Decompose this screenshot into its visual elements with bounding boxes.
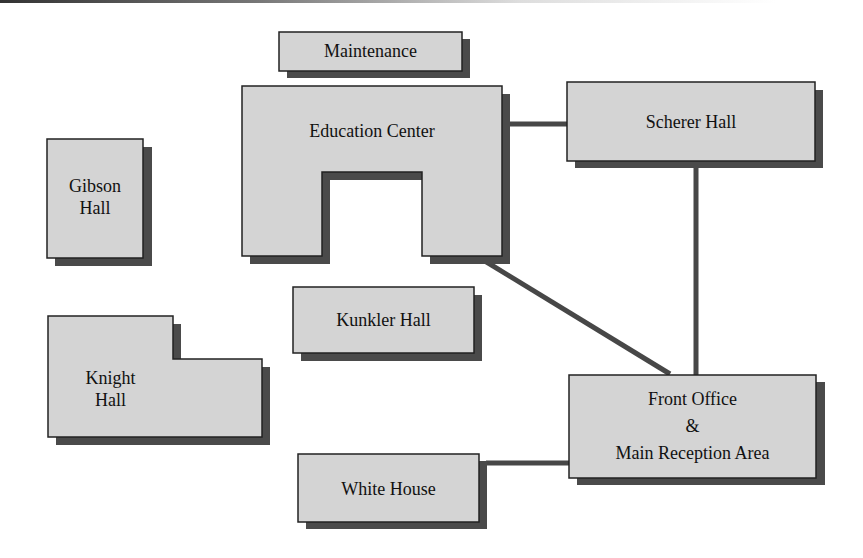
label-line: Hall — [47, 197, 143, 219]
label-knight-hall: Knight Hall — [48, 367, 173, 411]
label-line: Knight — [48, 367, 173, 389]
label-line: Main Reception Area — [569, 440, 816, 467]
label-gibson-hall: Gibson Hall — [47, 175, 143, 219]
label-line: Front Office — [569, 386, 816, 413]
connector-education-frontoffice — [480, 258, 670, 374]
label-line: Hall — [48, 389, 173, 411]
label-kunkler-hall: Kunkler Hall — [293, 309, 474, 331]
label-white-house: White House — [298, 478, 479, 500]
label-line: Gibson — [47, 175, 143, 197]
label-education-center: Education Center — [242, 120, 502, 142]
label-maintenance: Maintenance — [279, 40, 462, 62]
label-line: & — [569, 413, 816, 440]
building-education-center[interactable] — [242, 86, 502, 256]
campus-map — [0, 0, 863, 558]
label-scherer-hall: Scherer Hall — [567, 111, 815, 133]
label-front-office: Front Office & Main Reception Area — [569, 386, 816, 467]
